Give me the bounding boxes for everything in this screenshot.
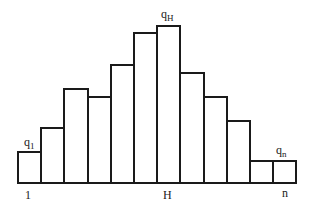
histogram-bar xyxy=(40,127,65,184)
histogram-bar xyxy=(156,25,181,184)
histogram-diagram: q1 qH qn 1 H n xyxy=(0,0,310,209)
qn-sub-text: n xyxy=(282,149,287,159)
histogram-bar xyxy=(179,72,205,184)
histogram-bar xyxy=(226,120,251,184)
histogram-bar xyxy=(203,96,228,184)
histogram-bar xyxy=(272,160,297,184)
histogram-bar xyxy=(133,32,158,184)
histogram-bar xyxy=(17,151,42,184)
histogram-bar xyxy=(110,64,135,184)
annotation-q1: q1 xyxy=(24,136,35,152)
tick-label-peak: H xyxy=(163,189,172,201)
baseline-axis xyxy=(17,182,296,184)
histogram-bar xyxy=(87,96,112,184)
qH-sub-text: H xyxy=(167,13,174,23)
tick-label-last: n xyxy=(282,187,288,199)
annotation-qn: qn xyxy=(276,144,287,160)
histogram-bar xyxy=(249,160,274,184)
q1-sub-text: 1 xyxy=(30,141,35,151)
histogram-bar xyxy=(63,88,89,184)
annotation-qH: qH xyxy=(161,8,174,24)
tick-label-first: 1 xyxy=(25,189,31,201)
